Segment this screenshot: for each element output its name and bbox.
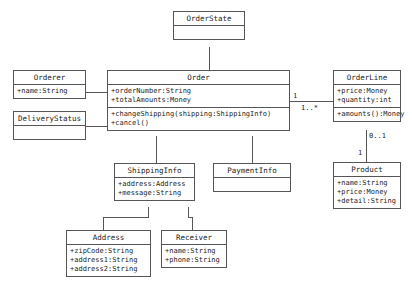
class-operation: +amounts():Money [337,110,397,119]
multiplicity-order-side: 1 [293,92,297,100]
class-operation: +cancel() [111,119,286,128]
class-box-receiver[interactable]: Receiver +name:String +phone:String [161,230,227,268]
class-operations-order: +changeShipping(shipping:ShippingInfo) +… [108,108,289,130]
class-box-order-state[interactable]: OrderState [173,11,245,40]
class-name-order: Order [108,71,289,84]
class-box-orderer[interactable]: Orderer +name:String [13,70,86,99]
edge-shippinginfo-address-bend [103,217,149,218]
class-attributes-payment-info [214,178,290,191]
multiplicity-orderline-side: 1..* [301,104,318,112]
class-box-payment-info[interactable]: PaymentInfo [213,163,291,192]
class-name-receiver: Receiver [162,231,226,244]
multiplicity-orderline-product-source: 0..1 [369,132,386,140]
edge-shippinginfo-address-drop [103,217,104,230]
class-attributes-order-line: +price:Money +quantity:int [334,85,400,107]
class-attribute: +detail:String [337,197,397,206]
edge-deliverystatus-order [86,126,108,127]
class-attribute: +price:Money [337,188,397,197]
class-name-delivery-status: DeliveryStatus [14,112,85,125]
edge-order-paymentinfo [252,136,253,163]
class-attribute: +name:String [17,87,82,96]
class-attribute: +totalAmounts:Money [111,96,286,105]
class-name-shipping-info: ShippingInfo [115,164,194,177]
class-attributes-product: +name:String +price:Money +detail:String [334,177,400,208]
class-attributes-receiver: +name:String +phone:String [162,245,226,267]
class-name-orderer: Orderer [14,71,85,84]
class-attribute: +phone:String [165,256,223,265]
edge-order-orderline [290,101,333,102]
class-name-product: Product [334,163,400,176]
class-attributes-order: +orderNumber:String +totalAmounts:Money [108,85,289,107]
class-box-product[interactable]: Product +name:String +price:Money +detai… [333,162,401,209]
class-name-address: Address [67,231,150,244]
class-name-order-state: OrderState [174,12,244,25]
class-attribute: +address:Address [118,180,191,189]
class-attribute: +orderNumber:String [111,87,286,96]
class-name-payment-info: PaymentInfo [214,164,290,177]
class-box-order-line[interactable]: OrderLine +price:Money +quantity:int +am… [333,70,401,122]
class-box-address[interactable]: Address +zipCode:String +address1:String… [66,230,151,277]
class-operation: +changeShipping(shipping:ShippingInfo) [111,110,286,119]
class-attribute: +message:String [118,189,191,198]
class-attributes-shipping-info: +address:Address +message:String [115,178,194,200]
class-attributes-address: +zipCode:String +address1:String +addres… [67,245,150,276]
class-attribute: +name:String [165,247,223,256]
class-box-shipping-info[interactable]: ShippingInfo +address:Address +message:S… [114,163,195,201]
class-attribute: +zipCode:String [70,247,147,256]
class-name-order-line: OrderLine [334,71,400,84]
class-attribute: +address2:String [70,265,147,274]
edge-orderline-product [366,130,367,162]
class-attributes-order-state [174,26,244,39]
class-attribute: +quantity:int [337,96,397,105]
class-attribute: +name:String [337,179,397,188]
edge-orderer-order [86,92,108,93]
class-box-order[interactable]: Order +orderNumber:String +totalAmounts:… [107,70,290,131]
class-attribute: +address1:String [70,256,147,265]
class-attributes-orderer: +name:String [14,85,85,98]
class-box-delivery-status[interactable]: DeliveryStatus [13,111,86,140]
uml-class-diagram: OrderState Orderer +name:String Delivery… [0,0,412,289]
edge-orderstate-order [209,47,210,70]
class-attribute: +price:Money [337,87,397,96]
edge-shippinginfo-receiver-drop [192,217,193,230]
class-operations-order-line: +amounts():Money [334,108,400,121]
edge-order-shippinginfo [156,136,157,163]
multiplicity-orderline-product-target: 1 [358,149,362,157]
class-attributes-delivery-status [14,126,85,139]
